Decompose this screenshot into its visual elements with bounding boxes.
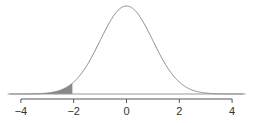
x-tick-label: 0 (123, 105, 129, 117)
normal-distribution-chart: −4−2024 (0, 0, 255, 123)
x-tick-label: −4 (15, 105, 28, 117)
x-tick-label: 2 (176, 105, 182, 117)
density-curve (8, 6, 246, 94)
shaded-tail-area (8, 83, 73, 94)
x-axis: −4−2024 (15, 99, 236, 117)
x-tick-label: 4 (229, 105, 235, 117)
x-tick-label: −2 (67, 105, 80, 117)
